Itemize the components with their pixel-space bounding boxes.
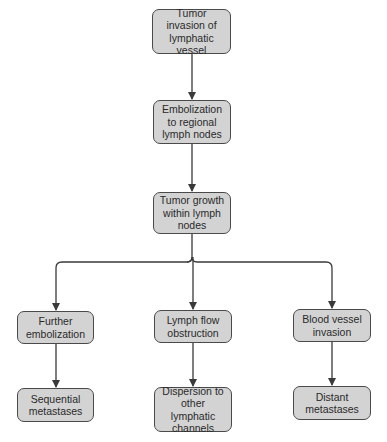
node-dispersion-lymphatic: Dispersion to other lymphatic channels <box>154 387 232 432</box>
node-label: Lymph flow obstruction <box>158 314 228 339</box>
node-blood-vessel-invasion: Blood vessel invasion <box>293 309 371 342</box>
node-label: Tumor invasion of lymphatic vessel <box>156 7 227 57</box>
node-sequential-metastases: Sequential metastases <box>17 388 94 422</box>
node-tumor-growth: Tumor growth within lymph nodes <box>153 192 231 234</box>
node-label: Embolization to regional lymph nodes <box>157 103 227 141</box>
node-tumor-invasion: Tumor invasion of lymphatic vessel <box>152 9 231 54</box>
node-label: Sequential metastases <box>21 393 90 418</box>
node-embolization-regional: Embolization to regional lymph nodes <box>153 100 231 144</box>
branch-joint <box>187 257 197 262</box>
branch-left <box>56 262 187 310</box>
node-label: Tumor growth within lymph nodes <box>157 194 227 232</box>
node-further-embolization: Further embolization <box>17 311 94 344</box>
node-label: Further embolization <box>21 315 90 340</box>
branch-right <box>197 262 332 308</box>
node-lymph-flow-obstruction: Lymph flow obstruction <box>154 310 232 343</box>
node-distant-metastases: Distant metastases <box>293 386 371 420</box>
node-label: Dispersion to other lymphatic channels <box>158 385 228 435</box>
node-label: Distant metastases <box>297 391 367 416</box>
node-label: Blood vessel invasion <box>297 313 367 338</box>
trunk-n3 <box>187 233 192 262</box>
flowchart: Tumor invasion of lymphatic vessel Embol… <box>0 0 387 442</box>
